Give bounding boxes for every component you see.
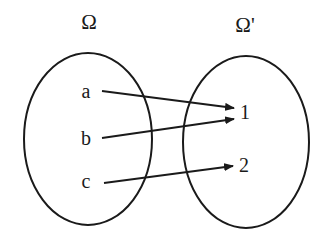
domain-element-a: a	[82, 80, 91, 102]
arrow-a-to-1	[102, 91, 234, 108]
arrow-c-to-2	[104, 166, 233, 183]
domain-element-b: b	[81, 127, 91, 149]
mapping-diagram: Ω Ω' a b c 1 2	[0, 0, 329, 250]
codomain-set-label: Ω'	[235, 13, 254, 37]
domain-element-c: c	[82, 170, 91, 192]
codomain-set-ellipse	[183, 56, 309, 228]
codomain-element-1: 1	[240, 101, 250, 123]
domain-set-label: Ω	[81, 10, 97, 34]
codomain-element-2: 2	[239, 154, 249, 176]
arrow-b-to-1	[102, 119, 234, 138]
